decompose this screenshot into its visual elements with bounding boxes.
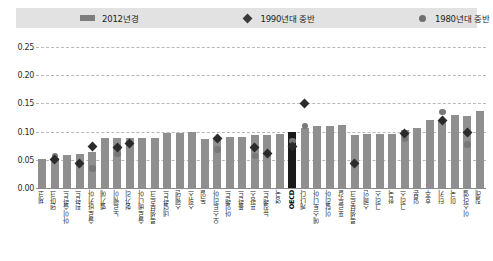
y-tick-label: 0.15 [4, 99, 34, 108]
bar[interactable] [176, 133, 184, 188]
bar-slot[interactable] [38, 47, 46, 188]
x-tick-label: 슬로베니아 [139, 190, 146, 224]
bar[interactable] [188, 132, 196, 188]
bar[interactable] [438, 120, 446, 188]
x-tick-label: OECD [289, 190, 296, 209]
bar-slot[interactable] [363, 47, 371, 188]
x-tick-label: 네덜란드 [164, 190, 171, 217]
bar-slot[interactable] [251, 47, 259, 188]
bar-slot[interactable] [426, 47, 434, 188]
x-tick-label: 헝가리 [126, 190, 133, 210]
bar-slot[interactable] [226, 47, 234, 188]
circle-marker[interactable] [464, 141, 471, 148]
bar-slot[interactable] [63, 47, 71, 188]
bar[interactable] [101, 138, 109, 188]
bar[interactable] [413, 128, 421, 188]
bar-slot[interactable] [76, 47, 84, 188]
bar[interactable] [201, 139, 209, 188]
bar-slot[interactable] [238, 47, 246, 188]
circle-marker[interactable] [89, 165, 96, 172]
bar-slot[interactable] [326, 47, 334, 188]
x-tick-label: 룩셈부르크 [151, 190, 158, 224]
bar[interactable] [476, 111, 484, 188]
bar[interactable] [238, 137, 246, 188]
x-tick-label: 이스라엘 [464, 190, 471, 217]
diamond-marker[interactable] [87, 141, 97, 151]
circle-marker[interactable] [439, 109, 446, 116]
legend-label-1990s: 1990년대 중반 [260, 12, 315, 24]
y-tick-label: 0.25 [4, 43, 34, 52]
legend-entry-1990s: 1990년대 중반 [240, 8, 315, 28]
x-tick-label: 스위스 [189, 190, 196, 210]
bar-slot[interactable] [138, 47, 146, 188]
circle-marker[interactable] [252, 153, 259, 160]
bar-slot[interactable] [476, 47, 484, 188]
bar-slot[interactable] [188, 47, 196, 188]
bar-slot[interactable] [301, 47, 309, 188]
circle-marker[interactable] [214, 146, 221, 153]
bar-slot[interactable] [401, 47, 409, 188]
y-axis: 0.250.200.150.100.050.00 [0, 47, 34, 188]
bar[interactable] [263, 135, 271, 188]
x-tick-label: 일본 [414, 190, 421, 204]
x-tick-label: 룩셈부르크 [351, 190, 358, 224]
bar[interactable] [151, 138, 159, 188]
bar[interactable] [313, 126, 321, 188]
bar-slot[interactable] [451, 47, 459, 188]
bar-slot[interactable] [463, 47, 471, 188]
bar[interactable] [163, 133, 171, 188]
bar-slot[interactable] [113, 47, 121, 188]
x-tick-label: 노르웨이 [114, 190, 121, 217]
bar-slot[interactable] [201, 47, 209, 188]
bar[interactable] [363, 134, 371, 188]
x-tick-label: 터키 [439, 190, 446, 204]
bar-slot[interactable] [288, 47, 296, 188]
bar-slot[interactable] [263, 47, 271, 188]
bar[interactable] [388, 134, 396, 188]
bar[interactable] [326, 126, 334, 188]
bar-slot[interactable] [51, 47, 59, 188]
bar-slot[interactable] [88, 47, 96, 188]
bar[interactable] [451, 115, 459, 188]
x-tick-label: 독일 [201, 190, 208, 204]
x-tick-label: 폴란드 [239, 190, 246, 210]
y-tick-label: 0.05 [4, 155, 34, 164]
bar-swatch-icon [80, 15, 95, 21]
bar-slot[interactable] [101, 47, 109, 188]
bar-slot[interactable] [313, 47, 321, 188]
bar[interactable] [63, 155, 71, 188]
x-tick-label: 스웨덴 [176, 190, 183, 210]
bar-slot[interactable] [126, 47, 134, 188]
bar-slot[interactable] [176, 47, 184, 188]
bar-slot[interactable] [376, 47, 384, 188]
bar[interactable] [301, 128, 309, 188]
bar-slot[interactable] [213, 47, 221, 188]
x-tick-label: 칠레 [476, 190, 483, 204]
circle-marker-icon [419, 15, 426, 22]
bar-slot[interactable] [388, 47, 396, 188]
bar-slot[interactable] [351, 47, 359, 188]
bar[interactable] [376, 134, 384, 188]
diamond-marker[interactable] [300, 98, 310, 108]
bar[interactable] [226, 137, 234, 188]
x-tick-label: 벨기에 [101, 190, 108, 210]
bar[interactable] [138, 138, 146, 188]
bar-slot[interactable] [163, 47, 171, 188]
bar[interactable] [338, 125, 346, 188]
y-tick-label: 0.10 [4, 127, 34, 136]
bar[interactable] [276, 134, 284, 188]
bar-slot[interactable] [338, 47, 346, 188]
circle-marker[interactable] [302, 123, 309, 130]
legend-label-1980s: 1980년대 중반 [435, 12, 490, 24]
x-tick-label: 그리스 [376, 190, 383, 210]
bar-slot[interactable] [151, 47, 159, 188]
diamond-marker-icon [243, 13, 253, 23]
x-tick-label: 스페인 [364, 190, 371, 210]
bar[interactable] [213, 138, 221, 188]
bar[interactable] [426, 120, 434, 188]
bar-slot[interactable] [413, 47, 421, 188]
x-tick-label: 아일랜드 [226, 190, 233, 217]
bar[interactable] [38, 159, 46, 188]
bar-slot[interactable] [276, 47, 284, 188]
bar-slot[interactable] [438, 47, 446, 188]
